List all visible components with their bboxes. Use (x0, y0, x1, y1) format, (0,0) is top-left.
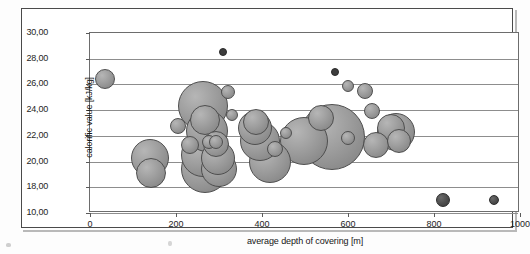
data-point-bubble (221, 85, 235, 99)
data-point-bubble (219, 48, 227, 56)
data-point-bubble (243, 109, 269, 135)
y-axis-tick-label: 26,00 (0, 78, 48, 88)
x-axis-tick (176, 213, 177, 217)
y-axis-tick-label: 30,00 (0, 27, 48, 37)
y-axis-tick-label: 10,00 (0, 207, 48, 217)
x-axis-tick-label: 1000 (510, 219, 530, 229)
y-axis-tick-label: 28,00 (0, 53, 48, 63)
data-point-bubble (341, 131, 355, 145)
data-points-layer (90, 33, 518, 211)
y-axis-tick-label: 24,00 (0, 104, 48, 114)
figure-frame: 30,0028,0026,0024,0022,0020,0018,0010,00… (21, 8, 513, 228)
scan-artifact-secondary (168, 241, 172, 246)
x-axis-tick-label: 800 (426, 219, 441, 229)
data-point-bubble (280, 127, 292, 139)
y-axis-tick-label: 18,00 (0, 181, 48, 191)
gridline (90, 213, 518, 214)
data-point-bubble (387, 129, 411, 153)
x-axis-tick-label: 200 (168, 219, 183, 229)
y-axis-title: calorific value [kJ/kg] (84, 77, 94, 158)
data-point-bubble (342, 80, 354, 92)
data-point-bubble (226, 109, 238, 121)
data-point-bubble (357, 83, 373, 99)
data-point-bubble (209, 135, 223, 149)
x-axis-tick (90, 213, 91, 217)
data-point-bubble (136, 158, 166, 188)
plot-area: 30,0028,0026,0024,0022,0020,0018,0010,00… (89, 32, 519, 212)
x-axis-tick (434, 213, 435, 217)
x-axis-tick (262, 213, 263, 217)
data-point-bubble (436, 193, 450, 207)
figure-root: 30,0028,0026,0024,0022,0020,0018,0010,00… (0, 0, 530, 254)
x-axis-tick (348, 213, 349, 217)
data-point-bubble (95, 69, 115, 89)
data-point-bubble (489, 195, 499, 205)
data-point-bubble (181, 136, 199, 154)
x-axis-tick-label: 600 (340, 219, 355, 229)
data-point-bubble (308, 105, 334, 131)
y-axis-tick-label: 20,00 (0, 156, 48, 166)
data-point-bubble (267, 141, 283, 157)
y-axis-tick-label: 22,00 (0, 130, 48, 140)
data-point-bubble (364, 103, 380, 119)
data-point-bubble (363, 132, 389, 158)
x-axis-tick (520, 213, 521, 217)
data-point-bubble (331, 68, 339, 76)
x-axis-title: average depth of covering [m] (90, 236, 520, 246)
x-axis-tick-label: 400 (254, 219, 269, 229)
scan-artifact (6, 243, 11, 247)
data-point-bubble (170, 118, 186, 134)
x-axis-tick-label: 0 (87, 219, 92, 229)
